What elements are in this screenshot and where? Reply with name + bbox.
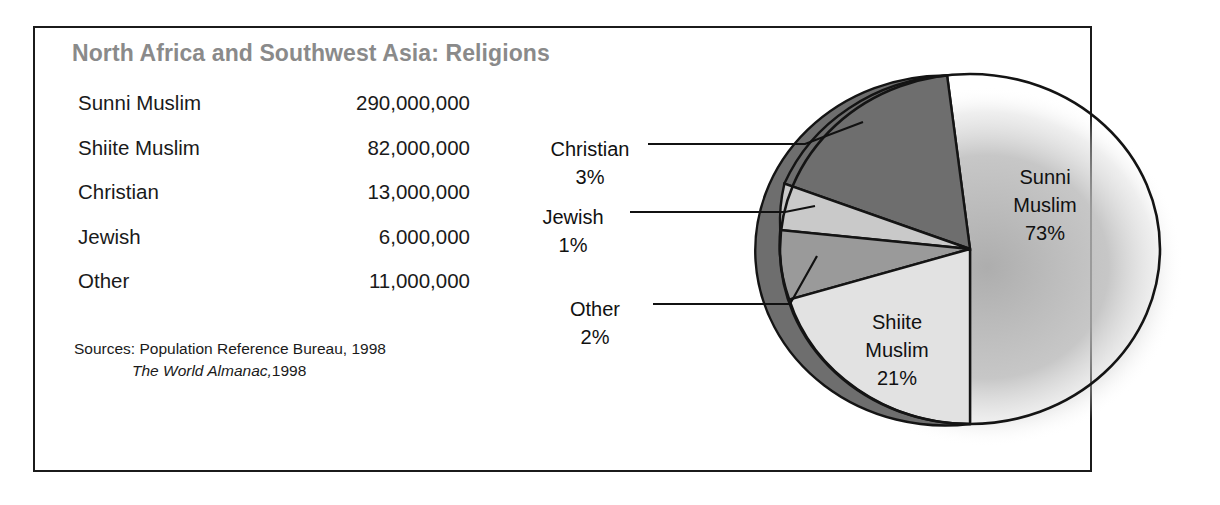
callout-label-christian-pct: 3% <box>576 166 605 188</box>
callout-label-jewish-pct: 1% <box>559 234 588 256</box>
pie-chart: Sunni Muslim 73% Shiite Muslim 21% Chris… <box>745 44 1200 464</box>
callout-label-other-name: Other <box>570 298 620 320</box>
religion-data-table: Sunni Muslim 290,000,000 Shiite Muslim 8… <box>72 93 474 316</box>
sources-line-1: Sources: Population Reference Bureau, 19… <box>74 340 386 357</box>
callout-label-christian-name: Christian <box>551 138 630 160</box>
slice-label-shiite-pct: 21% <box>877 367 917 389</box>
sources-almanac-year: 1998 <box>272 362 306 379</box>
sources-note: Sources: Population Reference Bureau, 19… <box>72 338 532 383</box>
callout-label-other-pct: 2% <box>581 326 610 348</box>
row-category-christian: Christian <box>72 182 282 227</box>
table-row: Christian 13,000,000 <box>72 182 474 227</box>
sources-almanac-title: The World Almanac, <box>132 362 272 379</box>
figure-root: North Africa and Southwest Asia: Religio… <box>0 0 1220 505</box>
sources-line-2: The World Almanac,1998 <box>74 360 532 382</box>
table-row: Shiite Muslim 82,000,000 <box>72 138 474 183</box>
slice-label-sunni-pct: 73% <box>1025 222 1065 244</box>
left-panel: North Africa and Southwest Asia: Religio… <box>72 40 532 382</box>
row-category-sunni-muslim: Sunni Muslim <box>72 93 282 138</box>
row-category-jewish: Jewish <box>72 227 282 272</box>
slice-label-shiite-name-1: Shiite <box>872 311 922 333</box>
slice-label-sunni-name-1: Sunni <box>1019 166 1070 188</box>
table-row: Sunni Muslim 290,000,000 <box>72 93 474 138</box>
callout-label-jewish-name: Jewish <box>542 206 603 228</box>
slice-label-sunni-name-2: Muslim <box>1013 194 1076 216</box>
page-title: North Africa and Southwest Asia: Religio… <box>72 40 532 67</box>
row-value-shiite-muslim: 82,000,000 <box>282 138 474 183</box>
row-value-other: 11,000,000 <box>282 271 474 316</box>
row-category-shiite-muslim: Shiite Muslim <box>72 138 282 183</box>
row-value-christian: 13,000,000 <box>282 182 474 227</box>
slice-label-shiite-name-2: Muslim <box>865 339 928 361</box>
row-value-jewish: 6,000,000 <box>282 227 474 272</box>
table-row: Other 11,000,000 <box>72 271 474 316</box>
row-value-sunni-muslim: 290,000,000 <box>282 93 474 138</box>
row-category-other: Other <box>72 271 282 316</box>
table-row: Jewish 6,000,000 <box>72 227 474 272</box>
